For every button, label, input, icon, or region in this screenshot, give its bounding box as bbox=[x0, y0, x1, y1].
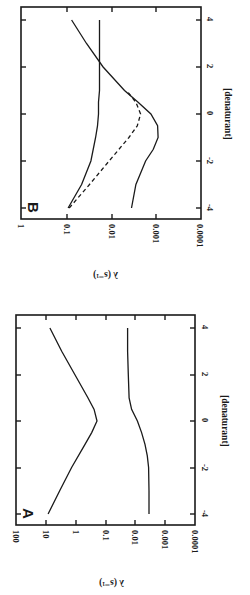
tick-label: 0 bbox=[205, 111, 215, 115]
panel-b-x-ticks bbox=[21, 20, 201, 208]
y-axis-label: λ (s⁻¹) bbox=[93, 269, 118, 280]
tick-label: -2 bbox=[205, 157, 215, 164]
curve-slow bbox=[72, 20, 159, 208]
tick-label: 0.1 bbox=[101, 530, 111, 541]
tick-label: 0.001 bbox=[151, 224, 161, 243]
tick-label: 0.1 bbox=[62, 224, 72, 235]
tick-label: 100 bbox=[11, 530, 21, 543]
panel-a-x-tick-labels: 4 2 0 -2 -4 bbox=[200, 325, 210, 518]
curve-dashed bbox=[69, 91, 140, 209]
tick-label: -4 bbox=[200, 510, 210, 518]
tick-label: 0.01 bbox=[107, 224, 117, 239]
panel-a-y-ticks bbox=[46, 315, 165, 525]
panel-letter: A bbox=[20, 508, 37, 519]
tick-label: 0.01 bbox=[130, 530, 140, 545]
panel-a-x-ticks bbox=[16, 328, 195, 514]
x-axis-label: [denaturant] bbox=[223, 88, 233, 140]
tick-label: 0.0001 bbox=[190, 530, 200, 553]
x-axis-label: [denaturant] bbox=[220, 395, 230, 447]
tick-label: 2 bbox=[205, 64, 215, 68]
curve-fast bbox=[48, 328, 97, 514]
y-axis-label: λ (s⁻¹) bbox=[99, 577, 124, 588]
panel-b-y-tick-labels: 1 0.1 0.01 0.001 0.0001 bbox=[16, 224, 205, 247]
panel-a: 100 10 1 0.1 0.01 0.001 0.0001 4 2 0 -2 … bbox=[11, 315, 230, 588]
tick-label: 2 bbox=[200, 372, 210, 376]
tick-label: 1 bbox=[16, 224, 26, 228]
tick-label: -4 bbox=[205, 204, 215, 212]
figure-canvas: 1 0.1 0.01 0.001 0.0001 4 2 0 -2 -4 [den… bbox=[0, 0, 250, 595]
panel-b: 1 0.1 0.01 0.001 0.0001 4 2 0 -2 -4 [den… bbox=[16, 7, 233, 280]
curve-fast bbox=[68, 20, 99, 208]
panel-b-x-tick-labels: 4 2 0 -2 -4 bbox=[205, 17, 215, 212]
panel-b-frame bbox=[21, 7, 201, 219]
tick-label: -2 bbox=[200, 464, 210, 471]
panel-a-frame bbox=[16, 315, 195, 525]
tick-label: 4 bbox=[205, 17, 215, 22]
tick-label: 0.0001 bbox=[195, 224, 205, 247]
panel-letter: B bbox=[25, 202, 42, 213]
tick-label: 1 bbox=[71, 530, 81, 534]
tick-label: 0.001 bbox=[160, 530, 170, 549]
tick-label: 4 bbox=[200, 325, 210, 330]
tick-label: 10 bbox=[41, 530, 51, 539]
panel-a-y-tick-labels: 100 10 1 0.1 0.01 0.001 0.0001 bbox=[11, 530, 200, 553]
tick-label: 0 bbox=[200, 418, 210, 422]
curve-slow bbox=[128, 328, 149, 514]
